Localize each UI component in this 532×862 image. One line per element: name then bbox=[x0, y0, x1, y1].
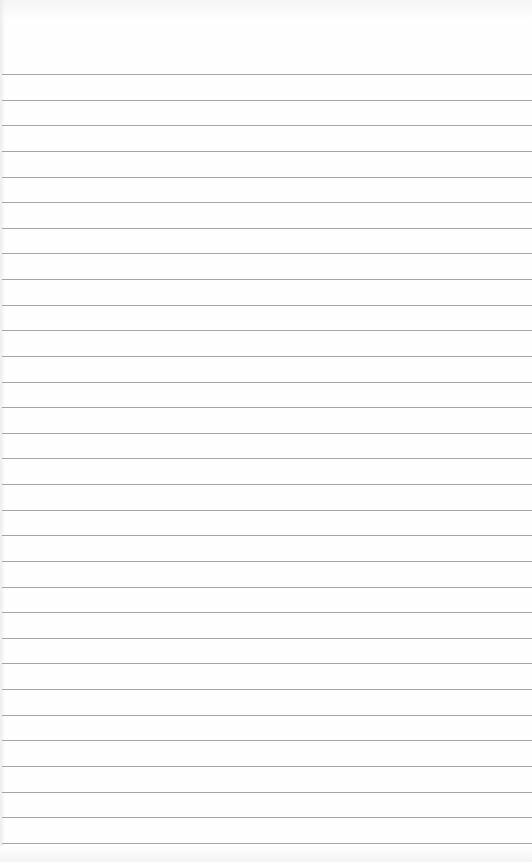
ruled-line bbox=[2, 74, 532, 75]
ruled-line bbox=[2, 125, 532, 126]
ruled-line bbox=[2, 100, 532, 101]
ruled-line bbox=[2, 510, 532, 511]
ruled-line bbox=[2, 382, 532, 383]
ruled-line bbox=[2, 792, 532, 793]
ruled-line bbox=[2, 151, 532, 152]
ruled-line bbox=[2, 740, 532, 741]
bottom-margin bbox=[0, 846, 532, 862]
ruled-line bbox=[2, 407, 532, 408]
ruled-line bbox=[2, 484, 532, 485]
top-margin bbox=[0, 0, 532, 20]
ruled-line bbox=[2, 817, 532, 818]
ruled-line bbox=[2, 228, 532, 229]
ruled-line bbox=[2, 587, 532, 588]
ruled-line bbox=[2, 202, 532, 203]
ruled-line bbox=[2, 843, 532, 844]
ruled-line bbox=[2, 766, 532, 767]
ruled-line bbox=[2, 253, 532, 254]
ruled-line bbox=[2, 458, 532, 459]
ruled-line bbox=[2, 433, 532, 434]
ruled-line bbox=[2, 535, 532, 536]
ruled-line bbox=[2, 305, 532, 306]
ruled-line bbox=[2, 638, 532, 639]
ruled-line bbox=[2, 561, 532, 562]
ruled-line bbox=[2, 689, 532, 690]
ruled-line bbox=[2, 356, 532, 357]
ruled-line bbox=[2, 663, 532, 664]
left-edge-shadow bbox=[0, 0, 5, 862]
ruled-line bbox=[2, 279, 532, 280]
ruled-line bbox=[2, 330, 532, 331]
lined-paper bbox=[0, 0, 532, 862]
ruled-line bbox=[2, 177, 532, 178]
ruled-line bbox=[2, 612, 532, 613]
ruled-line bbox=[2, 715, 532, 716]
